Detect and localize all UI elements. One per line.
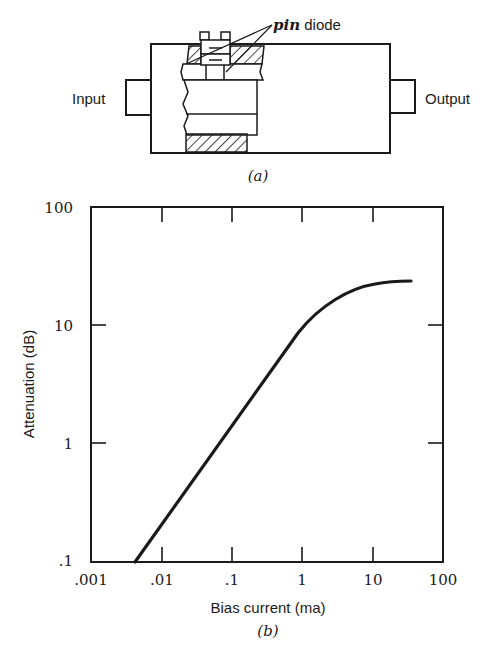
caption-b: (b) [257,622,278,640]
y-axis-label: Attenuation (dB) [20,330,37,438]
x-tick-label: .01 [150,571,174,589]
x-axis-label: Bias current (ma) [210,599,325,616]
output-port [390,80,415,113]
x-tick-label: 100 [429,571,458,589]
x-tick-label: 10 [363,571,382,589]
pin-diode [200,32,230,65]
plot-frame [91,207,443,562]
y-tick-label: 1 [63,435,73,453]
figure-canvas: Input Output pin diode (a) .001 .01 .1 1… [0,0,495,671]
diode-label-pin: pin [273,16,300,34]
x-tick-label: 1 [297,571,307,589]
input-port [126,80,151,115]
attenuation-curve [135,281,411,562]
y-tick-label: 10 [54,317,73,335]
x-tick-label: .1 [225,571,239,589]
diode-label: pin diode [273,16,341,34]
y-tick-label: .1 [59,552,73,570]
x-ticks [162,207,373,562]
input-label: Input [72,90,106,107]
y-tick-label: 100 [44,199,73,217]
attenuator-diagram: Input Output pin diode (a) [72,16,471,185]
attenuation-chart: .001 .01 .1 1 10 100 100 10 1 .1 Bias cu… [20,199,457,640]
diode-label-rest: diode [300,16,341,33]
caption-a: (a) [248,167,269,185]
x-tick-label: .001 [74,571,107,589]
output-label: Output [425,90,471,107]
y-ticks [91,325,443,443]
